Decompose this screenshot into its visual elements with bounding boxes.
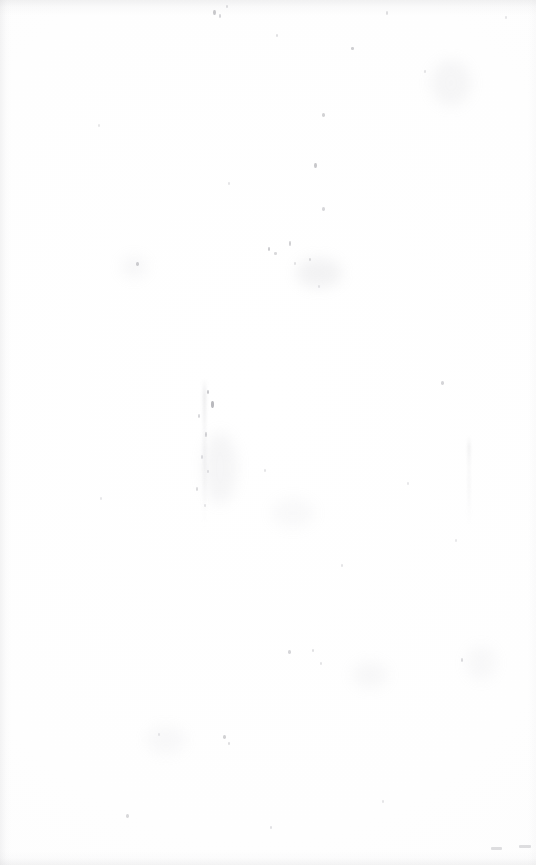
scanned-page — [0, 0, 536, 865]
page-text-content — [0, 0, 536, 865]
